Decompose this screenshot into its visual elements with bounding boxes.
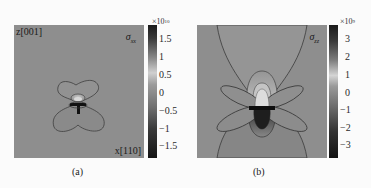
cbar-tick-a: 0.5 — [159, 70, 172, 80]
caption-a: (a) — [72, 167, 83, 177]
multiplier: ×10 — [152, 17, 165, 26]
sigma-subscript: xx — [131, 38, 136, 44]
stress-map-a: z[001] x[110] σxx — [14, 25, 144, 158]
cbar-tick-b: 2 — [345, 52, 350, 62]
cbar-tick-a: 1.5 — [159, 34, 172, 44]
cbar-tick-b: 3 — [345, 34, 350, 44]
contour-plot-b — [197, 25, 327, 158]
sigma-subscript: zz — [314, 38, 319, 44]
cbar-tick-b: 1 — [345, 70, 350, 80]
colorbar-a — [148, 25, 157, 158]
contour-plot-a — [14, 25, 144, 158]
cbar-tick-a: 1 — [159, 52, 164, 62]
stress-map-b: σzz — [197, 25, 327, 158]
cbar-tick-a: −1 — [159, 124, 170, 134]
cbar-tick-a: −1.5 — [159, 141, 177, 151]
caption-b: (b) — [253, 167, 265, 177]
exponent: 9 — [353, 19, 356, 24]
colorbar-exponent-a: ×1010 — [152, 18, 170, 26]
z-axis-label: z[001] — [16, 27, 42, 37]
colorbar-exponent-b: ×109 — [340, 18, 355, 26]
exponent: 10 — [165, 19, 170, 24]
cbar-tick-b: 0 — [345, 88, 350, 98]
cbar-tick-a: 0 — [159, 88, 164, 98]
cbar-tick-a: −0.5 — [159, 106, 177, 116]
cbar-tick-b: −1 — [340, 105, 351, 115]
sigma-label-a: σxx — [126, 31, 136, 44]
multiplier: ×10 — [340, 17, 353, 26]
colorbar-b — [329, 25, 338, 158]
sigma-label-b: σzz — [309, 31, 319, 44]
cbar-tick-b: −2 — [340, 123, 351, 133]
cbar-tick-b: −3 — [340, 140, 351, 150]
x-axis-label: x[110] — [115, 146, 141, 156]
